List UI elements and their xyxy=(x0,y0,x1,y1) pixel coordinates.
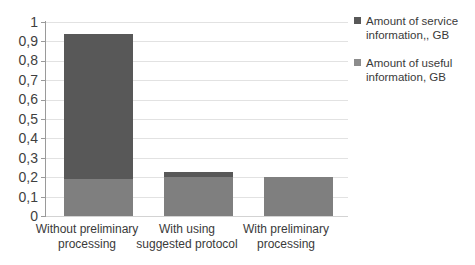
chart-legend: Amount of service information,, GB Amoun… xyxy=(354,14,475,98)
x-axis-baseline xyxy=(46,216,348,217)
y-tick-label: 0,6 xyxy=(4,92,38,106)
category-label-line: suggested protocol xyxy=(129,237,245,252)
y-tick-label: 0,7 xyxy=(4,73,38,87)
category-label-line: Without preliminary xyxy=(29,222,145,237)
bar-segment-useful xyxy=(264,177,333,216)
y-axis-tick xyxy=(41,216,45,217)
category-label-line: processing xyxy=(29,237,145,252)
legend-label-line: information,, GB xyxy=(366,28,475,42)
bar-segment-useful xyxy=(164,177,233,216)
x-axis-category-label: Without preliminary processing xyxy=(29,222,145,252)
y-tick-label: 0,1 xyxy=(4,190,38,204)
y-tick-label: 0,4 xyxy=(4,131,38,145)
legend-item-service-information[interactable]: Amount of service information,, GB xyxy=(354,14,475,42)
category-label-line: With preliminary xyxy=(231,222,341,237)
plot-area xyxy=(46,22,348,216)
y-axis-tick xyxy=(41,100,45,101)
stacked-bar-chart: 1 0,9 0,8 0,7 0,6 0,5 0,4 0,3 0,2 0,1 0 xyxy=(0,0,475,265)
y-tick-label: 0 xyxy=(4,209,38,223)
y-tick-label: 0,5 xyxy=(4,112,38,126)
bar-with-preliminary-processing xyxy=(264,177,333,216)
y-axis-tick xyxy=(41,119,45,120)
y-axis-tick xyxy=(41,41,45,42)
category-label-line: With using xyxy=(129,222,245,237)
y-tick-label: 0,8 xyxy=(4,53,38,67)
y-axis-tick xyxy=(41,138,45,139)
y-tick-label: 1 xyxy=(4,15,38,29)
square-swatch-icon xyxy=(354,59,361,66)
x-axis-category-label: With preliminary processing xyxy=(231,222,341,252)
y-axis-tick xyxy=(41,61,45,62)
y-axis-tick xyxy=(41,158,45,159)
legend-item-useful-information[interactable]: Amount of useful information, GB xyxy=(354,56,475,84)
y-axis-tick xyxy=(41,197,45,198)
x-axis-category-label: With using suggested protocol xyxy=(129,222,245,252)
gridline xyxy=(46,22,348,23)
y-axis-tick xyxy=(41,22,45,23)
bar-without-preliminary-processing xyxy=(64,34,133,216)
bar-segment-service xyxy=(64,34,133,180)
bar-with-using-suggested-protocol xyxy=(164,172,233,216)
y-tick-label: 0,9 xyxy=(4,34,38,48)
y-axis-tick xyxy=(41,177,45,178)
y-tick-label: 0,3 xyxy=(4,151,38,165)
legend-label-line: Amount of service xyxy=(366,14,475,28)
category-label-line: processing xyxy=(231,237,341,252)
y-axis-tick xyxy=(41,80,45,81)
y-tick-label: 0,2 xyxy=(4,170,38,184)
bar-segment-useful xyxy=(64,179,133,216)
legend-label-line: Amount of useful xyxy=(366,56,475,70)
square-swatch-icon xyxy=(354,17,361,24)
legend-label-line: information, GB xyxy=(366,70,475,84)
